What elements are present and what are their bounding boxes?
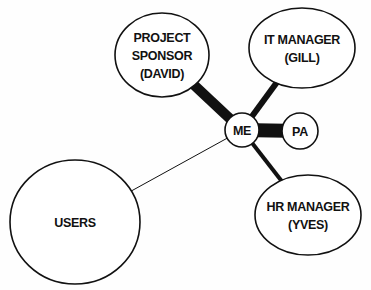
- node-sponsor: PROJECTSPONSOR(DAVID): [115, 13, 209, 97]
- node-sponsor-label: PROJECT: [134, 31, 192, 45]
- diagram-svg: PROJECTSPONSOR(DAVID)IT MANAGER(GILL)MEP…: [0, 0, 371, 290]
- node-it: IT MANAGER(GILL): [249, 8, 355, 88]
- node-hr-label: (YVES): [288, 218, 328, 232]
- node-hr-label: HR MANAGER: [266, 200, 349, 214]
- node-it-label: (GILL): [285, 51, 320, 65]
- node-it-shape: [249, 8, 355, 88]
- node-pa: PA: [282, 113, 318, 149]
- node-hr-shape: [255, 175, 361, 255]
- node-pa-label: PA: [292, 125, 308, 139]
- node-users: USERS: [10, 160, 140, 284]
- node-hr: HR MANAGER(YVES): [255, 175, 361, 255]
- node-it-label: IT MANAGER: [264, 33, 340, 47]
- stakeholder-diagram: PROJECTSPONSOR(DAVID)IT MANAGER(GILL)MEP…: [0, 0, 371, 290]
- node-sponsor-label: SPONSOR: [132, 49, 193, 63]
- node-me: ME: [225, 113, 259, 147]
- nodes-layer: PROJECTSPONSOR(DAVID)IT MANAGER(GILL)MEP…: [10, 8, 361, 284]
- node-users-label: USERS: [54, 216, 96, 230]
- node-me-label: ME: [233, 124, 251, 138]
- node-sponsor-label: (DAVID): [140, 67, 184, 81]
